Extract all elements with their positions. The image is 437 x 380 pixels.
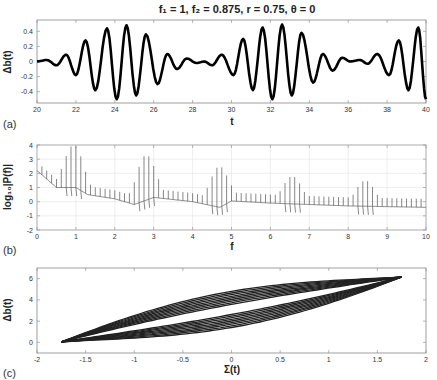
panel-c-phase-portrait: -2-1.5-1-0.500.511.520246 Σ(t) Δb(t) (c): [2, 268, 428, 379]
panel-letter-c: (c): [3, 367, 16, 379]
xlabel-a: t: [230, 116, 234, 127]
figure: f₁ = 1, f₂ = 0.875, r = 0.75, θ = 0 2022…: [0, 0, 437, 380]
ylabel-a: Δb(t): [2, 50, 13, 73]
x-tick-label: 22: [72, 106, 80, 113]
x-tick-label: -1.5: [80, 356, 92, 363]
x-tick-label: 6: [268, 233, 272, 240]
ylabel-c: Δb(t): [2, 298, 13, 321]
x-tick-label: 3: [152, 233, 156, 240]
y-tick-label: 0.4: [23, 28, 33, 35]
panel-b-spectrum: 012345678910-2-101234 f log₁₀|P(f)| (b): [2, 142, 430, 257]
x-tick-label: 38: [383, 106, 391, 113]
x-tick-label: 2: [113, 233, 117, 240]
y-tick-label: -1: [27, 212, 33, 219]
x-tick-label: 30: [228, 106, 236, 113]
x-tick-label: 1: [74, 233, 78, 240]
x-tick-label: 32: [267, 106, 275, 113]
x-tick-label: 20: [33, 106, 41, 113]
y-tick-label: -0.2: [21, 73, 33, 80]
y-tick-label: -2: [27, 227, 33, 234]
xlabel-c: Σ(t): [224, 364, 240, 375]
x-tick-label: -2: [34, 356, 40, 363]
x-tick-label: 0: [35, 233, 39, 240]
y-tick-label: 0: [29, 198, 33, 205]
x-tick-label: 5: [230, 233, 234, 240]
y-tick-label: 0: [29, 339, 33, 346]
x-tick-label: 40: [422, 106, 430, 113]
y-tick-label: 2: [29, 170, 33, 177]
y-tick-label: 6: [29, 275, 33, 282]
figure-title: f₁ = 1, f₂ = 0.875, r = 0.75, θ = 0: [159, 3, 316, 15]
x-tick-label: -0.5: [177, 356, 189, 363]
x-tick-label: 4: [191, 233, 195, 240]
x-tick-label: 34: [305, 106, 313, 113]
y-tick-label: 0: [29, 58, 33, 65]
x-tick-label: 10: [422, 233, 430, 240]
panel-letter-a: (a): [3, 118, 16, 130]
x-tick-label: 36: [344, 106, 352, 113]
x-tick-label: 0: [230, 356, 234, 363]
panel-letter-b: (b): [3, 244, 16, 256]
x-tick-label: 0.5: [275, 356, 285, 363]
x-tick-label: 7: [307, 233, 311, 240]
x-tick-label: 8: [346, 233, 350, 240]
y-tick-label: 1: [29, 184, 33, 191]
y-tick-label: 3: [29, 156, 33, 163]
panel-a-time-series: 2022242628303234363840-0.4-0.200.20.4 t …: [2, 20, 430, 130]
x-tick-label: -1: [131, 356, 137, 363]
x-tick-label: 28: [189, 106, 197, 113]
y-tick-label: 0.2: [23, 43, 33, 50]
x-tick-label: 2: [424, 356, 428, 363]
y-tick-label: 4: [29, 142, 33, 149]
x-tick-label: 1.5: [373, 356, 383, 363]
x-tick-label: 24: [111, 106, 119, 113]
ylabel-b: log₁₀|P(f)|: [2, 164, 13, 210]
x-tick-label: 26: [150, 106, 158, 113]
y-tick-label: 4: [29, 296, 33, 303]
x-tick-label: 1: [327, 356, 331, 363]
y-tick-label: 2: [29, 318, 33, 325]
xlabel-b: f: [230, 241, 234, 252]
x-tick-label: 9: [385, 233, 389, 240]
y-tick-label: -0.4: [21, 88, 33, 95]
